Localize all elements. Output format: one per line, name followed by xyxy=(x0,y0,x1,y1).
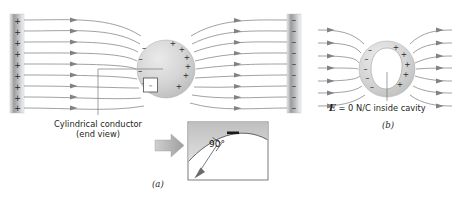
svg-text:–: – xyxy=(368,46,372,55)
field-arrowheads-b-right xyxy=(436,28,444,109)
svg-text:–: – xyxy=(370,83,374,92)
cylindrical-conductor-a: – – – – + + + + + + – xyxy=(137,39,195,98)
svg-text:+: + xyxy=(14,104,21,113)
svg-text:+: + xyxy=(14,61,21,70)
panel-b-label: (b) xyxy=(382,120,394,130)
field-lines-b-right xyxy=(410,30,452,106)
svg-text:+: + xyxy=(403,70,409,79)
svg-text:+: + xyxy=(397,80,403,89)
panel-b: – – – – – + + + + + xyxy=(318,28,452,109)
svg-text:–: – xyxy=(292,15,297,25)
inset-angle-label: 90° xyxy=(209,139,225,149)
svg-text:+: + xyxy=(393,43,399,52)
svg-text:+: + xyxy=(14,94,21,103)
magnified-inset xyxy=(188,122,268,180)
conductor-caption-line1: Cylindrical conductor xyxy=(54,119,142,129)
field-arrowheads-a-left xyxy=(70,18,78,111)
panel-a-label: (a) xyxy=(152,179,164,189)
svg-text:–: – xyxy=(365,55,369,64)
figure-canvas: ++ ++ ++ ++ + –– –– –– –– – xyxy=(0,0,456,197)
svg-text:–: – xyxy=(142,43,146,53)
svg-text:–: – xyxy=(292,92,297,102)
svg-text:+: + xyxy=(14,39,21,48)
inset-surface-charge xyxy=(227,132,239,135)
svg-text:+: + xyxy=(170,39,176,48)
svg-text:–: – xyxy=(366,74,370,83)
svg-text:–: – xyxy=(292,103,297,113)
svg-text:+: + xyxy=(183,71,189,80)
svg-text:–: – xyxy=(292,37,297,47)
field-lines-b-left xyxy=(318,30,365,106)
panel-b-caption: E = 0 N/C inside cavity xyxy=(329,103,426,113)
left-plate-charges: ++ ++ ++ ++ + xyxy=(14,17,21,114)
detail-callout-square: – xyxy=(144,78,158,92)
figure-container: ++ ++ ++ ++ + –– –– –– –– – xyxy=(0,0,456,197)
svg-text:+: + xyxy=(184,53,190,62)
svg-text:+: + xyxy=(176,82,182,91)
svg-text:+: + xyxy=(14,83,21,92)
right-plate-negative: –– –– –– –– – xyxy=(287,14,301,113)
svg-text:–: – xyxy=(292,70,297,80)
svg-text:–: – xyxy=(292,48,297,58)
svg-text:+: + xyxy=(14,28,21,37)
svg-text:+: + xyxy=(14,17,21,26)
svg-text:–: – xyxy=(292,81,297,91)
field-symbol: E xyxy=(329,103,336,113)
svg-text:–: – xyxy=(292,26,297,36)
panel-a: ++ ++ ++ ++ + –– –– –– –– – xyxy=(10,14,301,180)
svg-text:–: – xyxy=(364,65,368,74)
svg-text:–: – xyxy=(292,59,297,69)
field-arrowheads-b-left xyxy=(327,28,335,109)
conductor-caption: Cylindrical conductor (end view) xyxy=(35,119,161,139)
field-lines-a-left xyxy=(24,20,144,110)
svg-text:+: + xyxy=(14,50,21,59)
left-plate-positive: ++ ++ ++ ++ + xyxy=(10,14,24,113)
svg-text:–: – xyxy=(138,66,142,76)
field-caption-rest: = 0 N/C inside cavity xyxy=(336,103,426,113)
conductor-caption-line2: (end view) xyxy=(76,129,120,139)
svg-text:–: – xyxy=(138,54,142,64)
svg-text:–: – xyxy=(149,81,153,90)
svg-text:+: + xyxy=(185,62,191,71)
svg-text:+: + xyxy=(404,60,410,69)
right-plate-charges: –– –– –– –– – xyxy=(292,15,297,113)
svg-text:+: + xyxy=(401,50,407,59)
svg-text:+: + xyxy=(14,72,21,81)
